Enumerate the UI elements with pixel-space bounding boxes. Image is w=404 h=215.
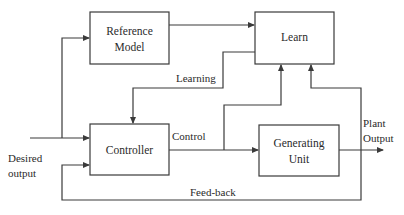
- reference-model-label-line2: Model: [114, 41, 144, 53]
- controller-block: Controller: [90, 124, 169, 175]
- controller-label: Controller: [106, 144, 153, 156]
- feedback-label: Feed-back: [190, 186, 236, 198]
- reference-model-block: Reference Model: [90, 12, 169, 64]
- generating-unit-label-line2: Unit: [289, 153, 310, 165]
- reference-model-label-line1: Reference: [106, 25, 153, 37]
- learning-label: Learning: [176, 72, 216, 84]
- desired-to-reference-arrow: [62, 38, 89, 138]
- learn-label: Learn: [281, 31, 308, 43]
- control-label: Control: [172, 130, 206, 142]
- generating-unit-label-line1: Generating: [273, 137, 324, 150]
- adaptive-control-diagram: Reference Model Learn Controller Generat…: [0, 0, 404, 215]
- plant-output-label-line2: Output: [363, 132, 394, 144]
- desired-output-label-line2: output: [8, 167, 36, 179]
- desired-output-label-line1: Desired: [8, 152, 43, 164]
- generating-unit-block: Generating Unit: [259, 125, 339, 176]
- learn-block: Learn: [255, 12, 334, 64]
- plant-output-label-line1: Plant: [363, 117, 386, 129]
